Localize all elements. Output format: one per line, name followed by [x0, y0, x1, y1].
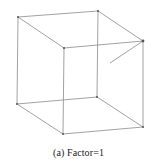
edge-vertical-back-right [97, 11, 98, 97]
edge-top-left [18, 17, 64, 48]
vertex-dot [142, 126, 144, 128]
figure-caption: (a) Factor=1 [0, 147, 157, 158]
edge-vertical-front-left [63, 48, 64, 134]
edge-top-right [98, 11, 143, 41]
edge-bottom-front [63, 127, 143, 134]
edge-bottom-back [17, 97, 97, 104]
edge-top-front [64, 41, 143, 48]
stub-line [110, 41, 143, 63]
edge-top-back [18, 11, 98, 17]
vertex-dot [142, 40, 145, 43]
vertex-dot [62, 133, 64, 135]
edge-vertical-back-left [17, 17, 18, 104]
vertex-dot [96, 96, 98, 98]
vertex-dot [63, 47, 65, 49]
edge-bottom-right [97, 97, 143, 127]
vertex-dot [17, 16, 19, 18]
edge-bottom-left [17, 104, 63, 134]
vertex-dot [16, 103, 18, 105]
vertex-dot [97, 10, 99, 12]
wireframe-cube-diagram [0, 0, 157, 145]
